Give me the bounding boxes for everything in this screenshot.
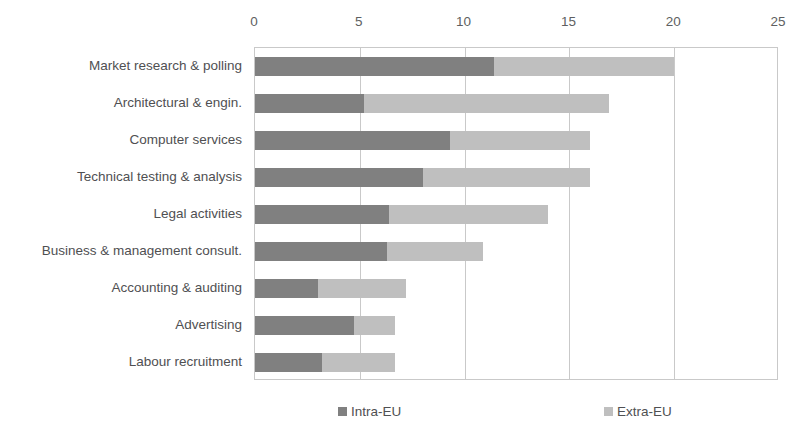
- legend-label: Extra-EU: [617, 404, 672, 419]
- bar-row: [255, 307, 777, 344]
- bar-row: [255, 270, 777, 307]
- bar-segment-extra-eu[interactable]: [387, 242, 483, 261]
- stacked-bar[interactable]: [255, 57, 674, 76]
- category-label: Technical testing & analysis: [77, 168, 242, 185]
- stacked-bar[interactable]: [255, 94, 609, 113]
- category-label: Accounting & auditing: [111, 279, 242, 296]
- legend-label: Intra-EU: [351, 404, 401, 419]
- category-label: Business & management consult.: [42, 242, 242, 259]
- bar-segment-intra-eu[interactable]: [255, 205, 389, 224]
- bar-segment-extra-eu[interactable]: [322, 353, 395, 372]
- bar-rows: [255, 48, 777, 379]
- x-axis-tick-labels: 0510152025: [254, 14, 778, 40]
- chart-container: 0510152025 Market research & pollingArch…: [0, 0, 788, 431]
- x-tick-label: 10: [456, 14, 471, 29]
- category-label: Architectural & engin.: [114, 94, 242, 111]
- chart-legend: Intra-EUExtra-EU: [254, 404, 778, 428]
- bar-row: [255, 48, 777, 85]
- stacked-bar[interactable]: [255, 353, 395, 372]
- bar-segment-intra-eu[interactable]: [255, 94, 364, 113]
- bar-segment-intra-eu[interactable]: [255, 316, 354, 335]
- category-label: Legal activities: [153, 205, 242, 222]
- bar-segment-extra-eu[interactable]: [423, 168, 591, 187]
- bar-segment-extra-eu[interactable]: [450, 131, 590, 150]
- bar-segment-extra-eu[interactable]: [389, 205, 548, 224]
- bar-segment-intra-eu[interactable]: [255, 279, 318, 298]
- bar-segment-intra-eu[interactable]: [255, 131, 450, 150]
- bar-row: [255, 344, 777, 381]
- stacked-bar[interactable]: [255, 316, 395, 335]
- bar-row: [255, 233, 777, 270]
- bar-row: [255, 196, 777, 233]
- legend-item-extra-eu[interactable]: Extra-EU: [604, 404, 672, 419]
- bar-segment-intra-eu[interactable]: [255, 242, 387, 261]
- stacked-bar[interactable]: [255, 205, 548, 224]
- bar-segment-intra-eu[interactable]: [255, 353, 322, 372]
- stacked-bar[interactable]: [255, 279, 406, 298]
- category-label: Labour recruitment: [129, 353, 242, 370]
- bar-row: [255, 159, 777, 196]
- stacked-bar[interactable]: [255, 168, 590, 187]
- bar-segment-extra-eu[interactable]: [494, 57, 674, 76]
- stacked-bar[interactable]: [255, 131, 590, 150]
- stacked-bar[interactable]: [255, 242, 483, 261]
- x-tick-label: 15: [561, 14, 576, 29]
- bar-segment-extra-eu[interactable]: [354, 316, 396, 335]
- bar-segment-extra-eu[interactable]: [318, 279, 406, 298]
- bar-segment-extra-eu[interactable]: [364, 94, 609, 113]
- category-label: Market research & polling: [89, 57, 242, 74]
- category-label: Advertising: [175, 316, 242, 333]
- bar-row: [255, 122, 777, 159]
- category-label: Computer services: [129, 131, 242, 148]
- bar-row: [255, 85, 777, 122]
- x-tick-label: 25: [770, 14, 785, 29]
- bar-segment-intra-eu[interactable]: [255, 57, 494, 76]
- x-tick-label: 5: [355, 14, 363, 29]
- bar-segment-intra-eu[interactable]: [255, 168, 423, 187]
- legend-swatch-icon: [604, 407, 613, 416]
- x-tick-label: 20: [666, 14, 681, 29]
- legend-swatch-icon: [338, 407, 347, 416]
- category-axis-labels: Market research & pollingArchitectural &…: [0, 47, 248, 380]
- plot-area: [254, 47, 778, 380]
- legend-item-intra-eu[interactable]: Intra-EU: [338, 404, 401, 419]
- x-tick-label: 0: [250, 14, 258, 29]
